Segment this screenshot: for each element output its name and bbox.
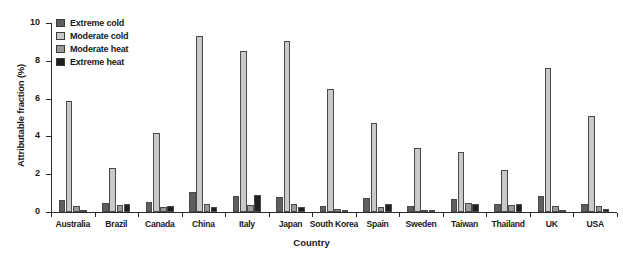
bar	[327, 89, 334, 212]
bar	[494, 204, 501, 213]
x-axis-tick	[225, 213, 226, 217]
bar	[167, 206, 174, 212]
bar	[320, 206, 327, 212]
bar	[581, 204, 588, 213]
bar	[588, 116, 595, 212]
legend-item-label: Extreme heat	[70, 57, 124, 67]
x-axis-category-label: USA	[567, 219, 623, 229]
x-axis-tick	[356, 213, 357, 217]
bar	[545, 68, 552, 212]
bar	[109, 168, 116, 212]
bar	[254, 195, 261, 212]
bar	[342, 210, 349, 212]
y-axis-tick-label: 0	[18, 206, 40, 216]
bar	[421, 210, 428, 212]
x-axis-tick	[530, 213, 531, 217]
y-axis-tick-label: 2	[18, 168, 40, 178]
legend-item: Moderate cold	[56, 29, 128, 42]
bar	[102, 203, 109, 212]
legend-item: Extreme cold	[56, 16, 128, 29]
x-axis-tick	[138, 213, 139, 217]
legend-swatch-icon	[56, 58, 65, 66]
legend-swatch-icon	[56, 32, 65, 40]
bar	[538, 196, 545, 212]
x-axis-tick	[182, 213, 183, 217]
bar	[291, 204, 298, 213]
bar	[196, 36, 203, 212]
bar	[363, 198, 370, 212]
bar	[247, 205, 254, 212]
y-axis-tick-label: 10	[18, 17, 40, 27]
bar	[59, 200, 66, 212]
bar	[472, 204, 479, 212]
bar	[508, 205, 515, 212]
x-axis-tick	[617, 213, 618, 217]
bar	[276, 197, 283, 212]
legend-swatch-icon	[56, 45, 65, 53]
bar	[233, 196, 240, 212]
legend-swatch-icon	[56, 19, 65, 27]
bar	[211, 207, 218, 212]
x-axis-line	[51, 212, 617, 213]
bar	[451, 199, 458, 212]
bar	[80, 210, 87, 212]
bar	[334, 209, 341, 212]
chart-legend: Extreme coldModerate coldModerate heatEx…	[56, 16, 128, 68]
x-axis-tick	[51, 213, 52, 217]
bar-chart-figure: Attributable fraction (%) 0246810 Austra…	[0, 0, 623, 261]
bar	[153, 133, 160, 212]
bar	[284, 41, 291, 212]
bar	[117, 205, 124, 212]
x-axis-tick	[443, 213, 444, 217]
y-axis-tick-label: 6	[18, 93, 40, 103]
x-axis-tick	[312, 213, 313, 217]
plot-area	[51, 23, 617, 212]
bar	[371, 123, 378, 212]
x-axis-tick	[486, 213, 487, 217]
bar	[146, 202, 153, 212]
bar	[501, 170, 508, 212]
bar	[516, 204, 523, 212]
legend-item-label: Moderate heat	[70, 44, 128, 54]
x-axis-tick	[95, 213, 96, 217]
bar	[73, 206, 80, 212]
bar	[603, 209, 610, 212]
bar	[458, 152, 465, 212]
y-axis-tick-label: 4	[18, 130, 40, 140]
bar	[204, 204, 211, 212]
legend-item: Extreme heat	[56, 55, 128, 68]
x-axis-tick	[269, 213, 270, 217]
legend-item: Moderate heat	[56, 42, 128, 55]
bar	[124, 204, 131, 212]
bar	[429, 210, 436, 212]
x-axis-label: Country	[0, 237, 623, 248]
bar	[552, 206, 559, 212]
bar	[385, 204, 392, 212]
bar	[414, 148, 421, 212]
bar	[298, 207, 305, 212]
bar	[596, 206, 603, 212]
legend-item-label: Moderate cold	[70, 31, 128, 41]
bar	[160, 207, 167, 212]
bar	[240, 51, 247, 212]
y-axis-tick-label: 8	[18, 55, 40, 65]
bar	[559, 210, 566, 212]
bar	[66, 101, 73, 212]
x-axis-tick	[399, 213, 400, 217]
bar	[378, 207, 385, 212]
bar	[407, 206, 414, 212]
x-axis-tick	[573, 213, 574, 217]
bar	[465, 203, 472, 212]
legend-item-label: Extreme cold	[70, 18, 124, 28]
bar	[189, 192, 196, 212]
